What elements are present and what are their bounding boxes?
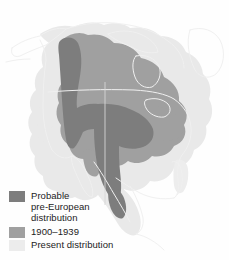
legend-swatch-1900-1939 [9,227,25,238]
distribution-map-figure: Probable pre-European distribution 1900–… [0,0,229,260]
legend-item-1900-1939: 1900–1939 [9,226,149,238]
legend-label-present-distribution: Present distribution [31,239,113,250]
legend-swatch-present-distribution [9,240,25,251]
legend-label-1900-1939: 1900–1939 [31,226,79,237]
legend-label-probable-pre-european: Probable pre-European distribution [31,190,90,224]
map-legend: Probable pre-European distribution 1900–… [9,190,149,252]
legend-item-probable-pre-european: Probable pre-European distribution [9,190,149,224]
legend-item-present-distribution: Present distribution [9,239,149,251]
aleutian-chain-outline [6,59,30,62]
legend-swatch-probable-pre-european [9,191,25,202]
